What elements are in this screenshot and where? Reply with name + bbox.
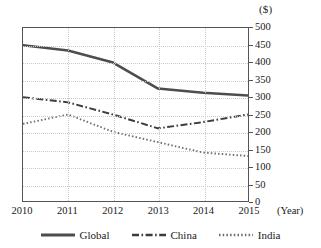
gridline-vertical [205, 28, 206, 201]
y-axis-tick-label: 300 [255, 92, 271, 103]
y-axis-tick-label: 500 [255, 22, 271, 33]
y-axis-tick [249, 80, 253, 81]
x-axis-tick-label: 2013 [148, 205, 169, 216]
x-axis-tick-label: 2010 [12, 205, 33, 216]
y-axis-tick [249, 27, 253, 28]
gridline-vertical [159, 28, 160, 201]
y-axis-tick-label: 150 [255, 144, 271, 155]
x-axis-unit-label: (Year) [277, 205, 303, 216]
y-axis-tick [249, 185, 253, 186]
x-axis-tick-label: 2012 [102, 205, 123, 216]
gridline-horizontal [23, 186, 248, 187]
x-axis-tick-label: 2011 [57, 205, 78, 216]
legend-item-china: China [132, 230, 197, 241]
series-line-china [23, 97, 248, 128]
gridline-horizontal [23, 116, 248, 117]
gridline-horizontal [23, 151, 248, 152]
legend-label: Global [80, 230, 110, 241]
y-axis-tick-label: 50 [255, 179, 266, 190]
legend-item-global: Global [41, 230, 110, 241]
y-axis-tick-label: 200 [255, 127, 271, 138]
y-axis-tick [249, 45, 253, 46]
series-layer [23, 28, 248, 201]
legend-label: India [258, 230, 281, 241]
gridline-horizontal [23, 98, 248, 99]
line-chart: ($) 050100150200250300350400450500 20102… [0, 0, 321, 248]
gridline-horizontal [23, 168, 248, 169]
gridline-vertical [114, 28, 115, 201]
gridline-horizontal [23, 63, 248, 64]
x-axis-tick-label: 2014 [193, 205, 214, 216]
y-axis-tick [249, 167, 253, 168]
y-axis-tick [249, 115, 253, 116]
series-line-global [23, 45, 248, 95]
y-axis-tick [249, 202, 253, 203]
y-axis-tick [249, 150, 253, 151]
y-axis-tick-label: 450 [255, 39, 271, 50]
gridline-horizontal [23, 81, 248, 82]
y-axis-tick [249, 132, 253, 133]
legend-swatch-china [132, 230, 166, 240]
x-axis-tick-label: 2015 [239, 205, 260, 216]
y-axis-tick-label: 350 [255, 74, 271, 85]
plot-area [22, 27, 249, 202]
y-axis-tick-label: 250 [255, 109, 271, 120]
legend-swatch-global [41, 230, 75, 240]
y-axis-tick-label: 100 [255, 162, 271, 173]
plot-inner [23, 28, 248, 201]
gridline-horizontal [23, 46, 248, 47]
legend-label: China [171, 230, 197, 241]
y-axis-tick [249, 97, 253, 98]
y-axis-tick [249, 62, 253, 63]
legend-item-india: India [219, 230, 281, 241]
y-axis-tick-label: 400 [255, 57, 271, 68]
gridline-vertical [68, 28, 69, 201]
chart-legend: GlobalChinaIndia [0, 225, 321, 245]
gridline-horizontal [23, 133, 248, 134]
legend-swatch-india [219, 230, 253, 240]
